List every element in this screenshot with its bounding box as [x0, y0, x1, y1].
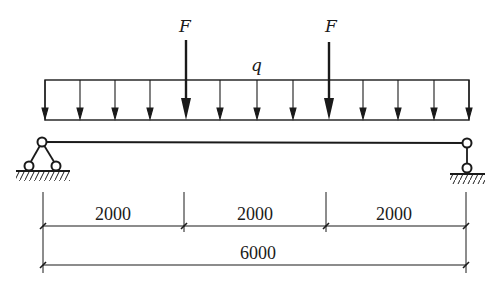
segment-2-dimension: 2000	[237, 204, 273, 224]
distributed-load-arrows	[42, 80, 472, 119]
arrow-down-icon	[181, 98, 191, 120]
pin-joint-icon	[25, 162, 34, 171]
pin-joint-icon	[52, 162, 61, 171]
beam	[42, 142, 467, 143]
distributed-load-label: q	[251, 55, 262, 75]
beam-diagram: q F F	[0, 0, 495, 302]
segment-1-dimension: 2000	[95, 204, 131, 224]
pin-joint-icon	[463, 164, 472, 173]
left-support	[16, 138, 70, 182]
ground-hatch-icon	[16, 172, 70, 181]
segment-3-dimension: 2000	[376, 204, 412, 224]
distributed-load: q	[42, 55, 472, 120]
point-load-2-label: F	[324, 16, 338, 36]
point-load-2: F	[324, 16, 338, 120]
point-load-1-label: F	[178, 16, 192, 36]
right-support	[450, 139, 485, 185]
pin-joint-icon	[38, 138, 47, 147]
total-dimension: 6000	[240, 243, 276, 263]
point-load-1: F	[178, 16, 192, 120]
ground-hatch-icon	[450, 175, 485, 184]
pin-joint-icon	[463, 139, 472, 148]
arrow-down-icon	[324, 98, 334, 120]
